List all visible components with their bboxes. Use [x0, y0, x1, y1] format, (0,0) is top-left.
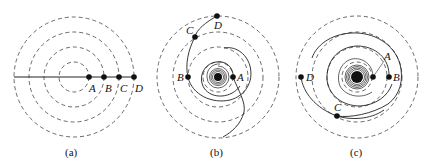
label-c: C	[186, 24, 194, 36]
central-core	[351, 71, 363, 83]
label-d: D	[305, 71, 314, 83]
spiral-arm-outer	[223, 77, 244, 137]
differential-rotation-figure: A B C D (a) A B C D (b)	[0, 0, 428, 165]
point-a	[370, 74, 376, 80]
label-a: A	[236, 71, 244, 83]
label-d: D	[213, 19, 222, 31]
caption-a: (a)	[65, 146, 78, 159]
label-b: B	[177, 71, 184, 83]
point-a	[86, 74, 92, 80]
label-a: A	[88, 82, 96, 94]
caption-b: (b)	[210, 146, 223, 159]
caption-c: (c)	[350, 146, 363, 159]
point-b	[101, 74, 107, 80]
label-b: B	[105, 82, 112, 94]
point-d	[131, 74, 137, 80]
panel-c: A B C D (c)	[296, 16, 418, 159]
point-b	[185, 74, 191, 80]
point-b	[386, 74, 392, 80]
leader-line-a	[373, 61, 384, 77]
label-c: C	[334, 101, 342, 113]
point-a	[230, 74, 236, 80]
central-core	[214, 73, 222, 81]
label-a: A	[383, 50, 391, 62]
spiral-arm-lower	[301, 77, 384, 118]
label-d: D	[134, 82, 143, 94]
panel-a: A B C D (a)	[14, 17, 143, 159]
point-c	[334, 113, 340, 119]
panel-b: A B C D (b)	[157, 13, 279, 159]
point-d	[214, 13, 220, 19]
point-d	[298, 74, 304, 80]
label-b: B	[393, 71, 400, 83]
point-c	[116, 74, 122, 80]
label-c: C	[120, 82, 128, 94]
